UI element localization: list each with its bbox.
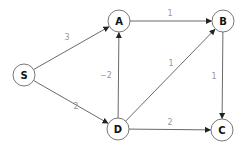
node-label: S <box>20 70 27 81</box>
node-label: D <box>114 124 122 135</box>
edge-weight-label: 1 <box>167 9 172 18</box>
edge-d-b <box>126 29 215 121</box>
edge-arrow <box>118 32 119 118</box>
edge-s-a <box>34 27 109 70</box>
node-a: A <box>108 10 130 32</box>
edge-arrow <box>34 80 108 123</box>
node-d: D <box>107 118 129 140</box>
edge-d-c <box>129 129 211 130</box>
edge-weight-label: 3 <box>64 33 69 42</box>
edge-weight-label: 1 <box>168 59 173 68</box>
node-b: B <box>212 10 234 32</box>
edge-weight-label: −2 <box>100 71 112 80</box>
edge-weight-label: 2 <box>167 118 172 127</box>
edge-arrow <box>129 129 211 130</box>
weighted-directed-graph: 321−2112 SABDC <box>0 0 246 150</box>
node-label: B <box>219 16 227 27</box>
edge-weight-label: 2 <box>73 102 78 111</box>
edge-arrow <box>126 29 215 121</box>
edge-weight-label: 1 <box>211 72 216 81</box>
node-label: A <box>115 16 123 27</box>
edge-arrow <box>34 27 109 70</box>
node-s: S <box>13 64 35 86</box>
edge-s-d <box>34 80 108 123</box>
edge-d-a <box>118 32 119 118</box>
node-c: C <box>211 119 233 141</box>
node-label: C <box>218 125 225 136</box>
edge-arrow <box>222 32 223 119</box>
edge-b-c <box>222 32 223 119</box>
